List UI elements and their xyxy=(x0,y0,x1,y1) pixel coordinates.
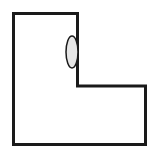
l-shape-diagram xyxy=(0,0,158,153)
l-shape-outline xyxy=(14,14,146,145)
oval-shape xyxy=(66,36,78,68)
